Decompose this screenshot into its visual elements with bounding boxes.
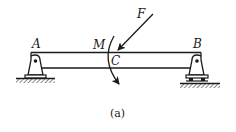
label-f: F (136, 7, 146, 21)
pin-icon (34, 59, 38, 63)
beam-diagram: A M C B F (a) (0, 0, 236, 132)
roller-support-b (180, 53, 220, 89)
pin-icon (195, 59, 199, 63)
label-m: M (92, 38, 106, 52)
label-c: C (111, 54, 120, 68)
force-arrow (118, 14, 153, 50)
figure-caption: (a) (110, 107, 125, 120)
ground-hatch (180, 84, 220, 88)
label-a: A (31, 37, 41, 51)
ground-hatch (16, 79, 55, 83)
label-b: B (192, 37, 202, 51)
